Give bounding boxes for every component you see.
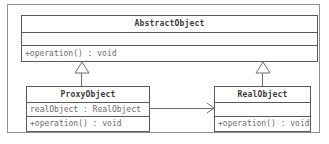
class-attributes-abstractobject: [22, 33, 317, 46]
generalization-line-real: [262, 73, 263, 86]
class-name-proxyobject: ProxyObject: [27, 87, 149, 103]
class-operation-proxyobject: +operation() : void: [27, 117, 149, 131]
association-arrow-icon: [206, 103, 215, 114]
uml-class-realobject[interactable]: RealObject +operation() : void: [214, 86, 311, 132]
class-attribute-proxyobject: realObject : RealObject: [27, 103, 149, 117]
diagram-canvas: AbstractObject +operation() : void Proxy…: [0, 0, 329, 144]
class-attributes-realobject: [215, 103, 310, 117]
uml-class-proxyobject[interactable]: ProxyObject realObject : RealObject +ope…: [26, 86, 150, 132]
association-line-proxy-real: [150, 108, 214, 109]
generalization-arrow-real: [255, 62, 271, 74]
diagram-frame: AbstractObject +operation() : void Proxy…: [7, 4, 320, 133]
class-name-abstractobject: AbstractObject: [22, 16, 317, 33]
uml-class-abstractobject[interactable]: AbstractObject +operation() : void: [21, 15, 318, 62]
generalization-arrow-proxy: [74, 62, 90, 74]
generalization-line-proxy: [81, 73, 82, 86]
class-name-realobject: RealObject: [215, 87, 310, 103]
class-operation-abstractobject: +operation() : void: [22, 46, 317, 61]
class-operation-realobject: +operation() : void: [215, 117, 310, 131]
